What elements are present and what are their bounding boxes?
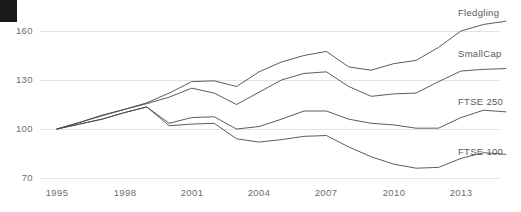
chart-plot-svg: 160 130 100 70 1995 1998 2001 2004 2007 … (0, 0, 521, 212)
x-axis-tick-labels: 1995 1998 2001 2004 2007 2010 2013 (46, 187, 473, 198)
x-tick-label-2007: 2007 (315, 187, 338, 198)
series-line-ftse-100 (57, 107, 506, 168)
y-tick-label-100: 100 (16, 123, 33, 134)
y-tick-label-160: 160 (16, 25, 33, 36)
x-tick-label-1995: 1995 (46, 187, 69, 198)
chart-screenshot: 160 130 100 70 1995 1998 2001 2004 2007 … (0, 0, 521, 212)
series-line-ftse-250 (57, 107, 506, 129)
line-chart: 160 130 100 70 1995 1998 2001 2004 2007 … (0, 0, 521, 212)
y-axis-tick-labels: 160 130 100 70 (16, 25, 33, 183)
x-tick-label-1998: 1998 (114, 187, 137, 198)
gridlines (40, 31, 500, 178)
x-tick-label-2010: 2010 (383, 187, 406, 198)
series-label-fledgling: Fledgling (458, 7, 499, 18)
series-label-ftse-100: FTSE 100 (458, 146, 503, 157)
x-tick-label-2013: 2013 (450, 187, 473, 198)
y-tick-label-70: 70 (22, 172, 33, 183)
series-label-smallcap: SmallCap (458, 48, 502, 59)
y-tick-label-130: 130 (16, 74, 33, 85)
series-lines (57, 21, 506, 168)
series-label-ftse-250: FTSE 250 (458, 96, 503, 107)
x-tick-label-2001: 2001 (181, 187, 204, 198)
series-line-smallcap (57, 69, 506, 129)
x-tick-label-2004: 2004 (248, 187, 271, 198)
